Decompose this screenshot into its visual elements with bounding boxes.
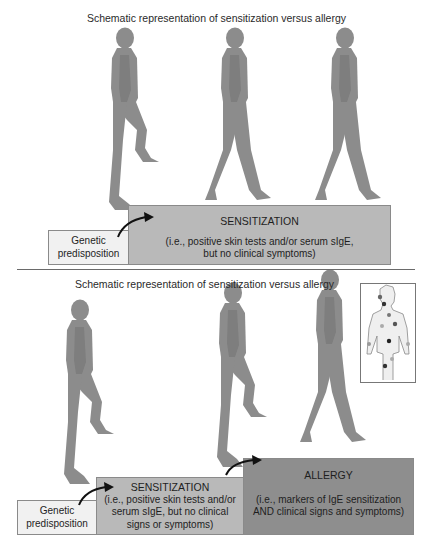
- figure-3-top: [315, 28, 381, 201]
- sensitization-desc-line2: serum sIgE, but no clinical: [97, 506, 243, 519]
- sensitization-desc-line1: (i.e., positive skin tests and/or serum …: [129, 236, 390, 249]
- sensitization-heading: SENSITIZATION: [97, 481, 243, 494]
- panel-divider: [17, 269, 415, 270]
- sensitization-desc-line2: but no clinical symptoms): [129, 248, 390, 261]
- sensitization-heading: SENSITIZATION: [129, 215, 390, 228]
- sensitization-desc-line1: (i.e., positive skin tests and/or: [97, 494, 243, 507]
- genetic-label-line2: predisposition: [18, 518, 96, 531]
- sensitization-desc-line3: signs or symptoms): [97, 519, 243, 532]
- genetic-label-line2: predisposition: [49, 248, 128, 261]
- body-allergy-sites-icon: [361, 284, 415, 382]
- body-inset: [360, 283, 416, 383]
- genetic-predisposition-box-bottom: Genetic predisposition: [17, 500, 97, 535]
- allergy-box: ALLERGY (i.e., markers of IgE sensitizat…: [243, 458, 414, 535]
- genetic-predisposition-box-top: Genetic predisposition: [48, 230, 129, 265]
- genetic-label-line1: Genetic: [49, 235, 128, 248]
- genetic-label-line1: Genetic: [18, 505, 96, 518]
- figure-1-top: [109, 28, 159, 211]
- allergy-heading: ALLERGY: [244, 469, 413, 482]
- figure-2-top: [205, 28, 271, 201]
- sensitization-box-top: SENSITIZATION (i.e., positive skin tests…: [128, 205, 391, 265]
- sensitization-box-bottom: SENSITIZATION (i.e., positive skin tests…: [96, 477, 244, 535]
- figure-2-bottom: [217, 283, 267, 468]
- allergy-desc-line2: AND clinical signs and symptoms): [244, 506, 413, 519]
- figure-1-bottom: [64, 300, 114, 485]
- allergy-desc-line1: (i.e., markers of IgE sensitization: [244, 494, 413, 507]
- bottom-panel-title: Schematic representation of sensitizatio…: [0, 278, 421, 290]
- figure-3-bottom: [300, 270, 366, 443]
